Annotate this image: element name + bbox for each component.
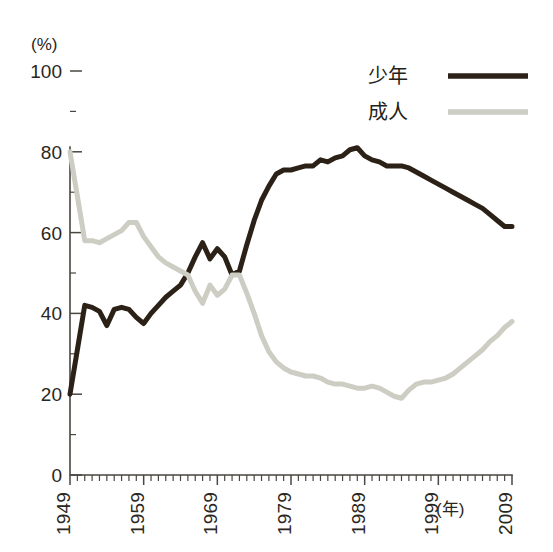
x-tick-label: 2009 bbox=[495, 492, 516, 535]
chart-canvas: (%) 020406080100 19491959196919791989199… bbox=[0, 0, 553, 552]
chart-background bbox=[0, 0, 553, 552]
x-tick-label: 1979 bbox=[274, 492, 295, 535]
x-tick-label: 1949 bbox=[53, 492, 74, 535]
y-tick-label: 80 bbox=[41, 142, 62, 163]
legend-label-adult: 成人 bbox=[368, 101, 408, 123]
y-tick-label: 20 bbox=[41, 384, 62, 405]
legend-label-juvenile: 少年 bbox=[368, 65, 408, 87]
y-axis-unit-label: (%) bbox=[31, 35, 57, 54]
x-tick-label: 1989 bbox=[348, 492, 369, 535]
x-tick-label: 1969 bbox=[200, 492, 221, 535]
x-tick-label: 1959 bbox=[127, 492, 148, 535]
x-axis-unit-label: (年) bbox=[436, 500, 464, 519]
y-tick-label: 0 bbox=[51, 465, 62, 486]
line-chart: (%) 020406080100 19491959196919791989199… bbox=[0, 0, 553, 552]
y-tick-label: 100 bbox=[30, 61, 62, 82]
y-tick-label: 60 bbox=[41, 223, 62, 244]
y-tick-label: 40 bbox=[41, 303, 62, 324]
